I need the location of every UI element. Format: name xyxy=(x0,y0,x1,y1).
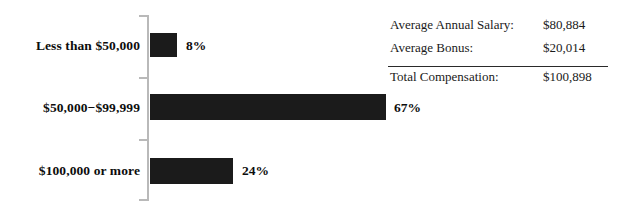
table-row: Average Annual Salary: $80,884 xyxy=(388,14,608,37)
bar-value-label: 8% xyxy=(186,38,206,54)
salary-distribution-bar-chart: Less than $50,000 8% $50,000−$99,999 67%… xyxy=(0,0,400,213)
chart-axis-line xyxy=(147,15,149,201)
bar-rect xyxy=(150,94,386,120)
bar-value-label: 24% xyxy=(242,163,269,179)
bar-value-label: 67% xyxy=(394,100,421,116)
row-value: $20,014 xyxy=(543,40,585,56)
axis-tick-bottom xyxy=(139,199,148,201)
table-row-total: Total Compensation: $100,898 xyxy=(388,66,608,89)
bar-category-label: Less than $50,000 xyxy=(36,38,140,54)
bar-category-label: $100,000 or more xyxy=(39,163,140,179)
axis-tick-2 xyxy=(139,139,148,141)
row-value: $80,884 xyxy=(543,17,585,33)
total-value: $100,898 xyxy=(543,69,592,85)
total-label: Total Compensation: xyxy=(390,69,499,85)
row-label: Average Bonus: xyxy=(390,40,473,56)
row-label: Average Annual Salary: xyxy=(390,17,514,33)
bar-rect xyxy=(150,33,177,57)
compensation-summary-table: Average Annual Salary: $80,884 Average B… xyxy=(388,14,608,89)
bar-category-label: $50,000−$99,999 xyxy=(43,100,140,116)
compensation-figure: Less than $50,000 8% $50,000−$99,999 67%… xyxy=(0,0,632,213)
axis-tick-1 xyxy=(139,77,148,79)
bar-rect xyxy=(150,158,233,184)
table-row: Average Bonus: $20,014 xyxy=(388,37,608,60)
axis-tick-top xyxy=(139,15,148,17)
